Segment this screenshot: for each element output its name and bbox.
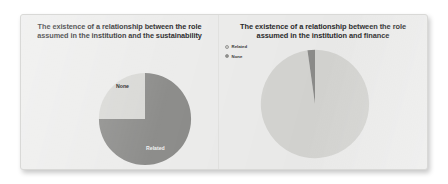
legend-label-none: None [232,54,243,59]
pie-chart-sustainability: None Related [97,71,193,167]
legend-label-related: Related [232,44,248,49]
pie-chart-finance [258,47,372,161]
chart-title-finance: The existence of a relationship between … [219,22,427,41]
chart-title-line-1: The existence of a relationship between … [25,22,214,31]
legend-swatch-icon-none [225,54,229,58]
chart-title-line-2: assumed in the institution and the susta… [25,31,214,40]
pie-svg-finance [258,47,372,161]
chart-title-sustainability: The existence of a relationship between … [21,22,218,41]
legend-swatch-icon-related [225,45,229,49]
pie-svg-sustainability [97,71,193,167]
pie-slice-none [99,73,145,119]
figure-panel: The existence of a relationship between … [20,14,428,170]
chart-title-line-1: The existence of a relationship between … [223,22,423,31]
chart-finance: The existence of a relationship between … [218,15,427,169]
pie-label-related: Related [146,145,165,151]
chart-sustainability: The existence of a relationship between … [21,15,218,169]
chart-title-line-2: assumed in the institution and finance [223,31,423,40]
pie-label-none: None [116,83,129,89]
